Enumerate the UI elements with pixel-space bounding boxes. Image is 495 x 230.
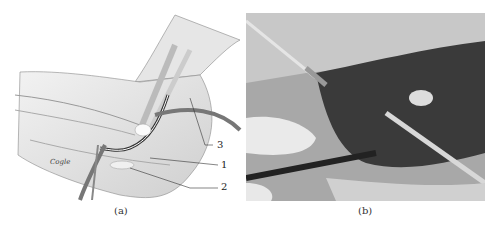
surgical-photo-panel-b <box>246 13 485 201</box>
illustration-panel-a: Cogle 3 1 2 <box>0 0 245 205</box>
caption-b: (b) <box>358 205 372 216</box>
surgical-photo <box>246 13 485 201</box>
label-3: 3 <box>217 139 223 150</box>
label-1: 1 <box>221 159 227 170</box>
label-2: 2 <box>221 181 227 192</box>
svg-text:Cogle: Cogle <box>50 158 70 166</box>
caption-a: (a) <box>114 205 128 216</box>
elbow-illustration: Cogle <box>0 0 245 205</box>
